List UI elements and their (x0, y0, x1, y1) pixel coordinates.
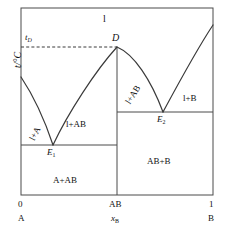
a-plus-ab-region-label: A+AB (53, 176, 77, 185)
liquid-plus-ab-left-region-label: l+AB (66, 120, 86, 129)
eutectic-point-1-text: E (47, 147, 53, 157)
x-axis-right-value: 1 (209, 200, 214, 209)
eutectic-point-1-label: E1 (47, 148, 55, 157)
td-tick-label: tD (25, 33, 32, 42)
liquid-region-label: l (103, 14, 106, 24)
phase-diagram-figure: t/°C tD l D l+A l+AB l+AB l+B E1 E2 A+AB… (0, 0, 226, 232)
eutectic-point-2-text: E (157, 114, 163, 124)
x-axis-mid-value: AB (109, 200, 122, 209)
liquid-plus-b-region-label: l+B (183, 94, 197, 103)
eutectic-point-2-label: E2 (157, 115, 165, 124)
x-axis-mid-label-subscript: B (115, 218, 119, 224)
x-axis-left-value: 0 (18, 200, 23, 209)
x-axis-mid-label: xB (111, 214, 119, 223)
eutectic-point-2-subscript: 2 (163, 119, 166, 125)
td-tick-subscript: D (28, 37, 32, 43)
congruent-melting-point-label: D (112, 33, 119, 43)
x-axis-right-component: B (208, 214, 214, 223)
eutectic-point-1-subscript: 1 (53, 152, 56, 158)
y-axis-label: t/°C (13, 52, 23, 68)
ab-plus-b-region-label: AB+B (147, 157, 171, 166)
x-axis-left-component: A (18, 214, 25, 223)
